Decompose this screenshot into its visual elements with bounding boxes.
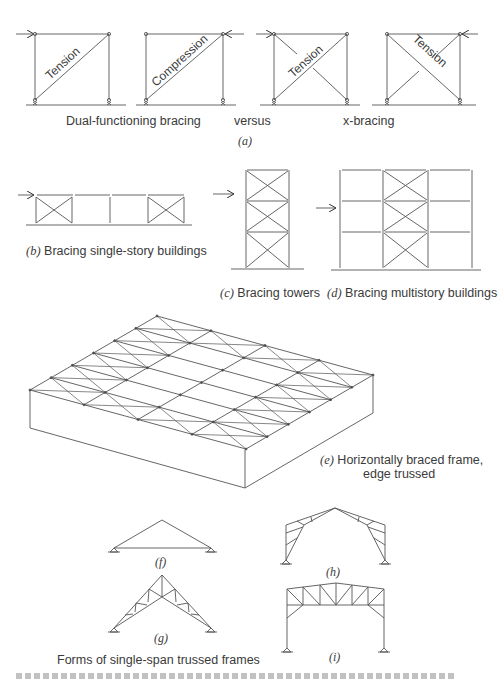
caption-x-bracing: x-bracing	[343, 115, 394, 128]
caption-b-text: Bracing single-story buildings	[44, 244, 207, 258]
frame-a1-tension	[16, 32, 126, 105]
truss-i	[281, 583, 390, 652]
caption-e: (e) Horizontally braced frame,	[320, 454, 483, 467]
letter-a: (a)	[238, 134, 252, 149]
truss-g	[108, 575, 217, 632]
caption-versus: versus	[234, 115, 271, 128]
label-a4-tension: Tension	[410, 32, 450, 70]
truss-h	[280, 508, 391, 564]
letter-c: (c)	[220, 286, 234, 300]
structural-bracing-figure: Tension Compression Tension Tension	[0, 0, 501, 679]
frame-d-multistory	[316, 170, 481, 270]
frame-b-single-story	[18, 195, 192, 225]
caption-d: (d) Bracing multistory buildings	[327, 287, 497, 300]
caption-b: (b) Bracing single-story buildings	[26, 245, 207, 258]
caption-c: (c) Bracing towers	[220, 287, 320, 300]
caption-e-line1: Horizontally braced frame,	[337, 453, 483, 467]
caption-dual-functioning: Dual-functioning bracing	[66, 115, 201, 128]
caption-c-text: Bracing towers	[237, 286, 320, 300]
group-caption: Forms of single-span trussed frames	[57, 654, 260, 667]
frame-c-tower	[213, 170, 304, 269]
letter-b: (b)	[26, 244, 41, 258]
cut-off-figure-caption	[16, 673, 456, 679]
letter-i: (i)	[329, 650, 340, 665]
letter-e: (e)	[320, 453, 334, 467]
letter-d: (d)	[327, 286, 342, 300]
letter-h: (h)	[326, 565, 340, 580]
caption-e-line2: edge trussed	[363, 468, 435, 481]
frame-a3-xbracing	[256, 32, 360, 105]
letter-g: (g)	[154, 631, 168, 646]
truss-f	[108, 520, 217, 552]
caption-d-text: Bracing multistory buildings	[345, 286, 497, 300]
label-a2-compression: Compression	[149, 32, 211, 90]
letter-f: (f)	[155, 555, 166, 570]
